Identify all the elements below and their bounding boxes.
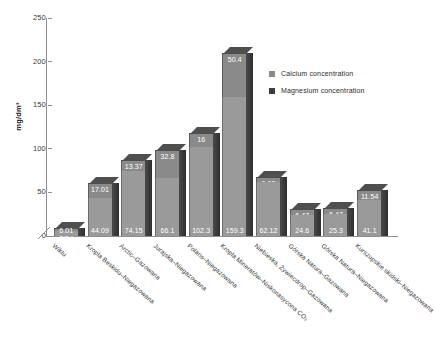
bar-segment-magnesium[interactable]: 11.54 (357, 190, 382, 200)
x-axis-label: Kropla Beskidu–Niegazowana (85, 242, 156, 305)
legend-label: Magnesium concentration (281, 87, 365, 94)
bar-side-face (347, 214, 354, 236)
legend-swatch-icon (269, 71, 275, 77)
legend-item[interactable]: Magnesium concentration (269, 87, 365, 94)
bar-value-label-calcium: 24.6 (291, 227, 314, 234)
bar-segment-magnesium[interactable]: 50.4 (222, 53, 247, 97)
bar-value-label-calcium: 102.3 (190, 227, 213, 234)
bar-side-face (213, 133, 220, 147)
bar-side-face (78, 231, 85, 236)
bar-segment-calcium[interactable]: 159.3 (222, 97, 247, 236)
bar-value-label-calcium: 41.1 (358, 227, 381, 234)
y-axis-tick: 200 (0, 57, 52, 66)
bar-value-label-calcium: 74.15 (122, 227, 145, 234)
x-axis-label: Górska Natura–Niegazowana (321, 242, 391, 304)
bar-segment-magnesium[interactable]: 13.37 (121, 160, 146, 172)
x-axis-label: Wiklu (51, 242, 68, 258)
y-axis-tick: 250 (0, 13, 52, 22)
bar-value-label-magnesium: 16 (190, 136, 213, 143)
bar-segment-calcium[interactable]: 6.01 (54, 231, 79, 236)
plot-area: 3.246.0117.0144.0913.3774.1532.866.11610… (47, 18, 398, 236)
bar-value-label-calcium: 44.09 (89, 227, 112, 234)
bar-segment-calcium[interactable]: 24.6 (290, 215, 315, 236)
bar-segment-calcium[interactable]: 41.1 (357, 200, 382, 236)
bar-value-label-magnesium: 13.37 (122, 163, 145, 170)
bar-side-face (280, 182, 287, 236)
bar-segment-calcium[interactable]: 102.3 (189, 147, 214, 236)
bar-side-face (246, 53, 253, 97)
bar-side-face (314, 215, 321, 236)
bar-value-label-magnesium: 11.54 (358, 193, 381, 200)
y-axis-tick: 50 (0, 187, 52, 196)
legend-item[interactable]: Calcium concentration (269, 70, 365, 77)
x-axis-line (46, 236, 398, 237)
legend-label: Calcium concentration (281, 70, 353, 77)
bar-side-face (145, 171, 152, 236)
y-axis-tick: 100 (0, 144, 52, 153)
bar-segment-magnesium[interactable]: 17.01 (88, 183, 113, 198)
bar-value-label-calcium: 25.3 (324, 227, 347, 234)
bar-value-label-magnesium: 32.8 (156, 153, 179, 160)
bar-value-label-magnesium: 17.01 (89, 186, 112, 193)
bar-side-face (179, 178, 186, 236)
chart-legend: Calcium concentrationMagnesium concentra… (269, 70, 365, 104)
bar-segment-calcium[interactable]: 62.12 (256, 182, 281, 236)
bar-side-face (112, 198, 119, 236)
x-axis-label: Górska Natura–Gazowana (287, 242, 350, 298)
bar-segment-calcium[interactable]: 74.15 (121, 171, 146, 236)
bar-segment-calcium[interactable]: 44.09 (88, 198, 113, 236)
bar-segment-magnesium[interactable]: 32.8 (155, 150, 180, 179)
y-axis-tick: 150 (0, 100, 52, 109)
bar-side-face (246, 97, 253, 236)
y-axis-title: mg/dm³ (14, 87, 23, 147)
bar-value-label-calcium: 62.12 (257, 227, 280, 234)
bar-value-label-calcium: 66.1 (156, 227, 179, 234)
bar-segment-magnesium[interactable]: 16 (189, 133, 214, 147)
legend-swatch-icon (269, 88, 275, 94)
bar-value-label-calcium: 159.3 (223, 227, 246, 234)
bar-side-face (145, 160, 152, 172)
bar-value-label-magnesium: 50.4 (223, 56, 246, 63)
bar-segment-calcium[interactable]: 66.1 (155, 178, 180, 236)
bar-segment-calcium[interactable]: 25.3 (323, 214, 348, 236)
bar-side-face (381, 190, 388, 200)
bar-side-face (213, 147, 220, 236)
bar-side-face (381, 200, 388, 236)
bar-side-face (112, 183, 119, 198)
bar-side-face (179, 150, 186, 179)
